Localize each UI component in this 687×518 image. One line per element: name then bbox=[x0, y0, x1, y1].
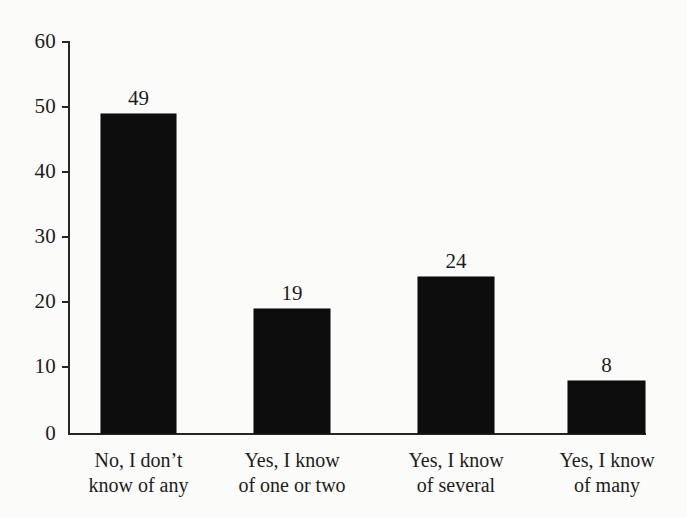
y-tick-label-10: 10 bbox=[35, 356, 56, 377]
y-tick-20 bbox=[62, 301, 69, 303]
bar-value-label-4: 8 bbox=[568, 355, 645, 376]
bar-value-label-1: 49 bbox=[101, 88, 176, 109]
x-axis-label-4-line-2: of many bbox=[537, 473, 677, 498]
y-tick-60 bbox=[62, 41, 69, 43]
bar-value-label-2: 19 bbox=[254, 283, 330, 304]
y-tick-50 bbox=[62, 106, 69, 108]
x-axis-label-2-line-2: of one or two bbox=[222, 473, 362, 498]
bar-no-i-dont-know-of-any[interactable] bbox=[101, 114, 176, 433]
y-tick-10 bbox=[62, 366, 69, 368]
y-tick-label-50: 50 bbox=[35, 96, 56, 117]
bar-yes-i-know-of-many[interactable] bbox=[568, 381, 645, 433]
x-axis-label-3-line-2: of several bbox=[386, 473, 526, 498]
x-axis-label-2: Yes, I know of one or two bbox=[222, 448, 362, 498]
x-axis-label-4-line-1: Yes, I know bbox=[537, 448, 677, 473]
bar-yes-i-know-of-several[interactable] bbox=[418, 277, 494, 433]
y-tick-label-60: 60 bbox=[35, 31, 56, 52]
x-axis-label-1-line-2: know of any bbox=[69, 473, 208, 498]
y-tick-label-0: 0 bbox=[45, 423, 56, 444]
x-axis-label-4: Yes, I know of many bbox=[537, 448, 677, 498]
x-axis-label-1-line-1: No, I don’t bbox=[69, 448, 208, 473]
x-axis-label-1: No, I don’t know of any bbox=[69, 448, 208, 498]
y-tick-label-30: 30 bbox=[35, 226, 56, 247]
y-tick-30 bbox=[62, 236, 69, 238]
x-axis-label-2-line-1: Yes, I know bbox=[222, 448, 362, 473]
x-axis-line bbox=[68, 433, 646, 435]
y-tick-label-20: 20 bbox=[35, 291, 56, 312]
bar-yes-i-know-of-one-or-two[interactable] bbox=[254, 309, 330, 433]
bar-chart: 60 50 40 30 20 10 0 bbox=[0, 0, 687, 518]
y-tick-label-40: 40 bbox=[35, 161, 56, 182]
bar-value-label-3: 24 bbox=[418, 251, 494, 272]
y-axis-line bbox=[68, 41, 70, 435]
x-axis-label-3: Yes, I know of several bbox=[386, 448, 526, 498]
y-tick-40 bbox=[62, 171, 69, 173]
x-axis-label-3-line-1: Yes, I know bbox=[386, 448, 526, 473]
